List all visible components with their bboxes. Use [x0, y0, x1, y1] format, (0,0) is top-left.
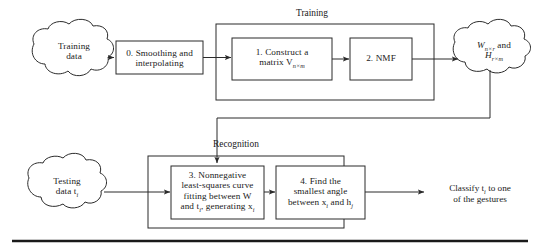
connector-whcloud-to-step3 — [217, 70, 490, 163]
flowchart-figure: Training Recognition Training data Wn×r … — [0, 0, 540, 249]
training-data-cloud-label: Training data — [34, 41, 114, 62]
step1-matrix-subscript: n×m — [293, 62, 305, 69]
step1-label: 1. Construct a matrix Vn×m — [232, 47, 332, 68]
classification-output-label: Classify ti to one of the gestures — [428, 183, 532, 204]
wh-w-symbol: W — [477, 40, 485, 50]
step3-t-symbol: and t — [181, 201, 200, 211]
training-group-label: Training — [296, 8, 328, 18]
wh-cloud-label: Wn×r and Hr×m — [455, 40, 533, 61]
step4-h-symbol: and h — [328, 197, 351, 207]
step3-x-subscript: i — [253, 206, 255, 213]
step4-label: 4. Find the smallest angle between xi an… — [274, 176, 367, 207]
output-toone-text: to one — [486, 183, 511, 193]
step4-h-subscript: j — [351, 201, 353, 208]
testing-data-cloud-label: Testing data ti — [29, 176, 105, 197]
step2-label: 2. NMF — [350, 53, 412, 63]
step4-x-symbol: between x — [288, 197, 326, 207]
wh-h-symbol: H — [485, 50, 492, 60]
flowchart-vector-layer — [0, 0, 540, 249]
wh-and-word: and — [495, 40, 511, 50]
step3-x-symbol: , generating x — [201, 201, 253, 211]
testing-data-symbol: data t — [56, 186, 77, 196]
step1-matrix-symbol: matrix V — [259, 57, 293, 67]
recognition-group-label: Recognition — [213, 139, 259, 149]
wh-h-subscript: r×m — [492, 55, 503, 62]
step3-label: 3. Nonnegative least-squares curve fitti… — [169, 170, 266, 211]
testing-data-subscript: i — [76, 191, 78, 198]
step0-label: 0. Smoothing and interpolating — [116, 48, 203, 69]
output-classify-text: Classify t — [449, 183, 484, 193]
